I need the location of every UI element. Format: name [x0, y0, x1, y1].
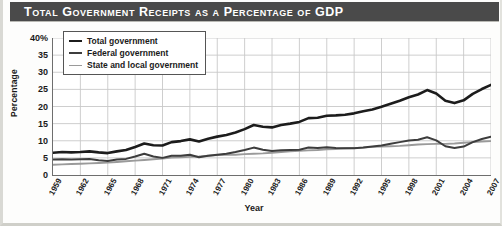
- y-axis-tick: 5: [43, 153, 48, 163]
- y-axis-tick: 0: [43, 170, 48, 180]
- x-axis-tick: 1986: [293, 177, 310, 197]
- y-axis-tick: 20: [38, 102, 48, 112]
- x-axis-tick: 2001: [430, 177, 447, 197]
- x-axis-tick: 1959: [47, 177, 64, 197]
- legend-label-total: Total government: [87, 35, 158, 47]
- legend-swatch-state-local-icon: [69, 65, 82, 66]
- series-line: [53, 141, 491, 165]
- legend-swatch-total-icon: [69, 40, 82, 42]
- y-axis-tick: 30: [38, 67, 48, 77]
- x-axis-tick: 2007: [485, 177, 502, 197]
- legend-label-state-local: State and local government: [87, 59, 198, 71]
- x-axis-tick: 1968: [129, 177, 146, 197]
- x-axis-tick: 1995: [376, 177, 393, 197]
- x-axis-tick: 1980: [239, 177, 256, 197]
- x-axis-tick: 1992: [348, 177, 365, 197]
- x-axis-tick: 2004: [458, 177, 475, 197]
- page-title: Total Government Receipts as a Percentag…: [24, 5, 344, 19]
- x-axis-tick: 1983: [266, 177, 283, 197]
- x-axis-title: Year: [3, 203, 502, 213]
- legend-item-total: Total government: [69, 35, 198, 47]
- x-axis-tick: 1962: [74, 177, 91, 197]
- legend-swatch-federal-icon: [69, 52, 82, 54]
- y-axis-tick: 35: [38, 50, 48, 60]
- chart-title-bar: Total Government Receipts as a Percentag…: [10, 2, 499, 21]
- x-axis-tick: 1971: [157, 177, 174, 197]
- y-axis-tick: 40%: [30, 33, 48, 43]
- legend-item-federal: Federal government: [69, 47, 198, 59]
- chart-legend: Total government Federal government Stat…: [63, 31, 206, 75]
- x-axis-tick: 1989: [321, 177, 338, 197]
- y-axis-tick: 25: [38, 84, 48, 94]
- x-axis-labels: 1959196219651968197119741977198019831986…: [52, 177, 490, 203]
- y-axis-title: Percentage: [9, 56, 19, 130]
- legend-item-state-local: State and local government: [69, 59, 198, 71]
- x-axis-tick: 1974: [184, 177, 201, 197]
- series-line: [53, 85, 491, 153]
- y-axis-tick: 15: [38, 119, 48, 129]
- series-line: [53, 137, 491, 161]
- x-axis-tick: 1965: [102, 177, 119, 197]
- x-axis-tick: 1977: [211, 177, 228, 197]
- chart-figure: Total Government Receipts as a Percentag…: [0, 0, 502, 226]
- y-axis-tick: 10: [38, 136, 48, 146]
- legend-label-federal: Federal government: [87, 47, 168, 59]
- x-axis-tick: 1998: [403, 177, 420, 197]
